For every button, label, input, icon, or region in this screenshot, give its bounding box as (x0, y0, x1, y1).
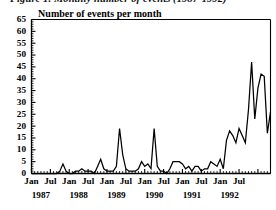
x-tick-label-year: 1987 (27, 191, 55, 200)
x-tick-label-year: 1989 (102, 191, 130, 200)
x-tick-label-month: Jul (228, 177, 250, 186)
y-tick-label: 20 (2, 122, 26, 131)
y-tick-label: 65 (2, 15, 26, 24)
figure-container: Figure 1. Monthly number of events (1987… (0, 0, 276, 210)
y-tick-label: 15 (2, 133, 26, 142)
y-tick-label: 30 (2, 98, 26, 107)
x-tick-label-year: 1988 (65, 191, 93, 200)
plot-frame (32, 20, 271, 174)
y-tick-label: 25 (2, 110, 26, 119)
y-tick-label: 35 (2, 86, 26, 95)
x-tick-label-year: 1990 (140, 191, 168, 200)
x-tick-label-year: 1992 (216, 191, 244, 200)
y-tick-label: 55 (2, 39, 26, 48)
y-tick-label: 45 (2, 62, 26, 71)
y-tick-label: 10 (2, 145, 26, 154)
y-tick-label: 60 (2, 27, 26, 36)
y-tick-label: 40 (2, 74, 26, 83)
data-series-line (32, 62, 271, 173)
y-tick-label: 5 (2, 157, 26, 166)
x-tick-label-year: 1991 (178, 191, 206, 200)
y-tick-label: 50 (2, 50, 26, 59)
